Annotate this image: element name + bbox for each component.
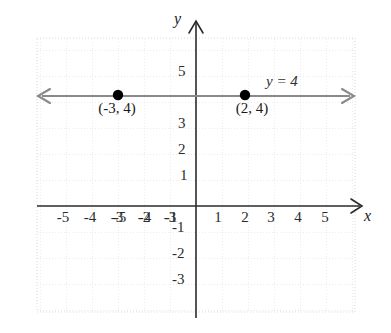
x-tick-label-neg-3: -3	[111, 210, 124, 225]
x-tick-label-neg-2: -2	[138, 210, 151, 225]
x-tick-label-3: 3	[267, 210, 275, 225]
y-tick-label--1: -1	[172, 220, 185, 235]
y-axis-label: y	[174, 11, 181, 27]
x-tick-label-5: 5	[321, 210, 329, 225]
x-tick-label-neg-5: -5	[57, 210, 70, 225]
coordinate-plane-figure: y x -5 -4 -3 -5 -5 -4 -3 -2 -1 1 2 3 4 5…	[0, 0, 391, 333]
x-tick-label-2: 2	[241, 210, 249, 225]
data-point-left	[113, 90, 123, 100]
y-tick-label-3: 3	[178, 116, 186, 131]
y-tick-label-5: 5	[178, 64, 186, 79]
point-label-right: (2, 4)	[236, 101, 269, 116]
x-tick-label-4: 4	[294, 210, 302, 225]
y-tick-label-1: 1	[180, 168, 188, 183]
data-point-right	[240, 90, 250, 100]
y-tick-label-2: 2	[178, 142, 186, 157]
point-label-left: (-3, 4)	[98, 101, 136, 116]
x-tick-label-neg-4: -4	[84, 210, 97, 225]
x-axis-label: x	[364, 208, 371, 224]
x-tick-label-1: 1	[214, 210, 222, 225]
plot-canvas	[0, 0, 391, 333]
line-equation-label: y = 4	[266, 74, 298, 89]
y-tick-label--2: -2	[172, 246, 185, 261]
y-tick-label--3: -3	[172, 272, 185, 287]
